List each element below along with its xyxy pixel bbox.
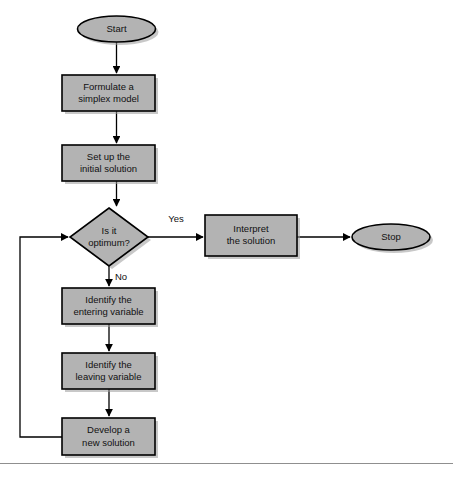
setup-label-line2: initial solution	[80, 163, 137, 174]
formulate-label-line1: Formulate a	[83, 81, 134, 92]
node-develop-solution[interactable]: Develop a new solution	[62, 418, 158, 458]
entering-label-line2: entering variable	[73, 306, 143, 317]
node-interpret[interactable]: Interpret the solution	[205, 215, 300, 259]
decision-label-line2: optimum?	[88, 237, 130, 248]
edge-label-yes: Yes	[168, 213, 184, 224]
footer-divider	[0, 463, 453, 464]
develop-label-line2: new solution	[82, 437, 135, 448]
formulate-label-line2: simplex model	[78, 93, 139, 104]
edge-develop-feedback-to-decision	[20, 237, 68, 437]
node-setup[interactable]: Set up the initial solution	[62, 145, 158, 184]
node-decision-optimum[interactable]: Is it optimum?	[70, 208, 151, 269]
flowchart-canvas: Start Formulate a simplex model Set up t…	[0, 0, 453, 479]
develop-label-line1: Develop a	[87, 424, 130, 435]
node-stop[interactable]: Stop	[352, 224, 433, 253]
node-start[interactable]: Start	[78, 16, 159, 45]
edge-label-no: No	[115, 271, 127, 282]
leaving-label-line1: Identify the	[85, 359, 131, 370]
interpret-label-line1: Interpret	[233, 223, 269, 234]
node-leaving-variable[interactable]: Identify the leaving variable	[62, 353, 158, 392]
decision-label-line1: Is it	[102, 225, 117, 236]
interpret-label-line2: the solution	[227, 235, 276, 246]
setup-label-line1: Set up the	[87, 151, 130, 162]
node-entering-variable[interactable]: Identify the entering variable	[62, 288, 158, 327]
node-formulate[interactable]: Formulate a simplex model	[62, 75, 158, 114]
flowchart-svg: Start Formulate a simplex model Set up t…	[0, 0, 453, 479]
stop-label: Stop	[381, 231, 401, 242]
leaving-label-line2: leaving variable	[75, 371, 141, 382]
start-label: Start	[106, 23, 126, 34]
entering-label-line1: Identify the	[85, 294, 131, 305]
